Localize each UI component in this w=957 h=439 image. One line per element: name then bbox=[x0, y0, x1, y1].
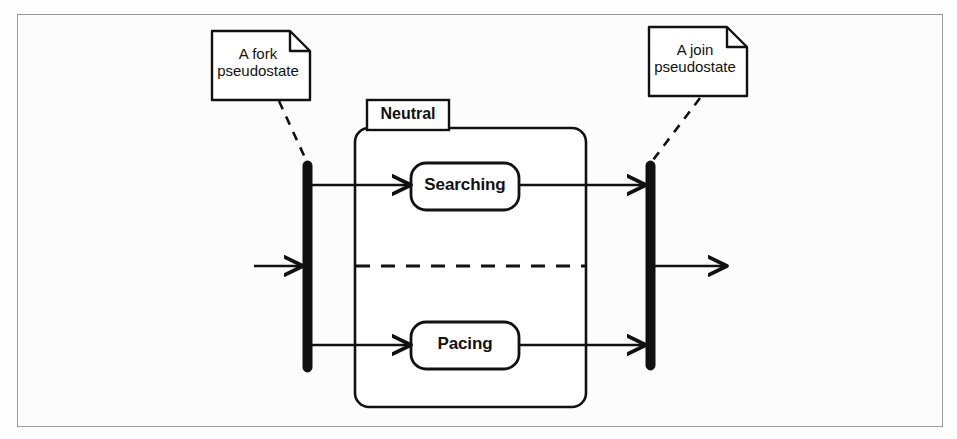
join-note-connector bbox=[653, 98, 700, 160]
fork-note-connector bbox=[279, 101, 306, 160]
diagram-canvas bbox=[0, 0, 957, 439]
searching-state-label: Searching bbox=[411, 175, 519, 194]
pacing-state-label: Pacing bbox=[411, 334, 519, 353]
join-note-label: A join pseudostate bbox=[649, 42, 741, 76]
join-bar bbox=[646, 161, 655, 370]
composite-state-name-label: Neutral bbox=[367, 105, 449, 123]
diagram-page: A fork pseudostate A join pseudostate Ne… bbox=[0, 0, 957, 439]
fork-note-label: A fork pseudostate bbox=[212, 46, 304, 80]
fork-bar bbox=[303, 161, 312, 372]
